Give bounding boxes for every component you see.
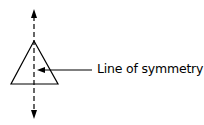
arrow-down-icon — [31, 110, 37, 119]
arrow-up-icon — [31, 9, 37, 18]
arrow-left-icon — [37, 67, 45, 73]
line-of-symmetry-label: Line of symmetry — [97, 61, 203, 76]
triangle-shape — [11, 41, 58, 84]
symmetry-diagram: Line of symmetry — [0, 0, 204, 125]
